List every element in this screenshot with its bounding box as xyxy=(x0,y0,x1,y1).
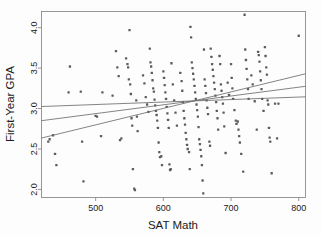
data-point xyxy=(130,93,132,95)
data-point xyxy=(118,75,120,77)
data-point xyxy=(203,78,205,80)
data-point xyxy=(246,78,248,80)
data-point xyxy=(211,63,213,65)
x-axis-ticks xyxy=(96,198,299,202)
data-point xyxy=(198,138,200,140)
data-point xyxy=(245,59,247,61)
data-point xyxy=(185,138,187,140)
y-tick-label-2: 2.0 xyxy=(29,183,39,196)
scatter-plot-figure: 500600700800 2.02.53.03.54.0 SAT Math Fi… xyxy=(0,0,322,235)
data-point xyxy=(80,90,82,92)
data-point xyxy=(213,82,215,84)
data-point xyxy=(222,103,224,105)
data-point xyxy=(245,68,247,70)
data-point xyxy=(166,112,168,114)
data-point xyxy=(184,124,186,126)
data-point xyxy=(168,163,170,165)
data-point xyxy=(192,73,194,75)
data-point xyxy=(264,55,266,57)
data-point xyxy=(214,88,216,90)
data-point xyxy=(151,72,153,74)
data-point xyxy=(252,83,254,85)
data-point xyxy=(208,141,210,143)
data-point xyxy=(136,115,138,117)
data-point xyxy=(268,127,270,129)
data-point xyxy=(193,85,195,87)
x-axis-tick-labels: 500600700800 xyxy=(88,203,306,213)
data-point xyxy=(167,119,169,121)
data-point xyxy=(100,135,102,137)
data-point xyxy=(258,54,260,56)
data-point xyxy=(216,110,218,112)
data-point xyxy=(188,151,190,153)
x-tick-label-600: 600 xyxy=(156,203,171,213)
data-point xyxy=(125,57,127,59)
data-point xyxy=(233,109,235,111)
data-point xyxy=(145,96,147,98)
data-point xyxy=(204,85,206,87)
x-tick-label-500: 500 xyxy=(88,203,103,213)
y-axis-title: First-Year GPA xyxy=(4,66,16,142)
data-point xyxy=(195,103,197,105)
data-point xyxy=(202,192,204,194)
data-point xyxy=(224,152,226,154)
data-point xyxy=(231,77,233,79)
data-point xyxy=(242,170,244,172)
data-point xyxy=(219,63,221,65)
data-point xyxy=(47,141,49,143)
y-tick-label-2.5: 2.5 xyxy=(29,143,39,156)
data-point xyxy=(189,26,191,28)
data-point xyxy=(217,128,219,130)
data-point xyxy=(126,63,128,65)
data-point xyxy=(181,90,183,92)
data-point xyxy=(129,83,131,85)
data-point xyxy=(165,98,167,100)
data-point xyxy=(199,149,201,151)
data-point xyxy=(203,48,205,50)
data-point xyxy=(187,148,189,150)
data-point xyxy=(269,141,271,143)
data-point xyxy=(220,83,222,85)
data-point xyxy=(210,48,212,50)
data-point xyxy=(266,73,268,75)
data-point xyxy=(265,66,267,68)
data-point xyxy=(220,90,222,92)
x-axis-title: SAT Math xyxy=(148,219,198,231)
x-tick-label-700: 700 xyxy=(224,203,239,213)
data-point xyxy=(223,125,225,127)
data-point xyxy=(227,82,229,84)
data-point xyxy=(197,126,199,128)
data-point xyxy=(243,14,245,16)
data-point xyxy=(244,48,246,50)
plot-canvas: 500600700800 2.02.53.03.54.0 SAT Math Fi… xyxy=(0,0,322,235)
data-point xyxy=(222,111,224,113)
data-point xyxy=(174,111,176,113)
data-point xyxy=(201,179,203,181)
data-point xyxy=(164,91,166,93)
data-point xyxy=(153,90,155,92)
data-point xyxy=(150,65,152,67)
data-point xyxy=(149,61,151,63)
data-point xyxy=(142,74,144,76)
data-point xyxy=(170,62,172,64)
data-point xyxy=(250,74,252,76)
data-point xyxy=(157,127,159,129)
data-point xyxy=(143,82,145,84)
data-point xyxy=(162,70,164,72)
data-point xyxy=(262,110,264,112)
data-point xyxy=(218,55,220,57)
data-point xyxy=(81,141,83,143)
data-point xyxy=(196,109,198,111)
data-point xyxy=(235,123,237,125)
data-point xyxy=(127,66,129,68)
data-point xyxy=(134,189,136,191)
data-point xyxy=(240,153,242,155)
data-point xyxy=(180,80,182,82)
data-point xyxy=(186,144,188,146)
data-point xyxy=(111,94,113,96)
data-point xyxy=(160,155,162,157)
data-point xyxy=(200,155,202,157)
data-point xyxy=(155,114,157,116)
y-tick-label-3.5: 3.5 xyxy=(29,62,39,75)
data-point xyxy=(257,51,259,53)
